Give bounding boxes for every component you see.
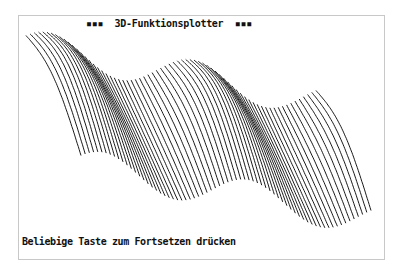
surface-plot	[0, 0, 405, 274]
page-title: ▪▪▪ 3D-Funktionsplotter ▪▪▪	[86, 18, 252, 29]
continue-prompt: Beliebige Taste zum Fortsetzen drücken	[22, 236, 236, 247]
